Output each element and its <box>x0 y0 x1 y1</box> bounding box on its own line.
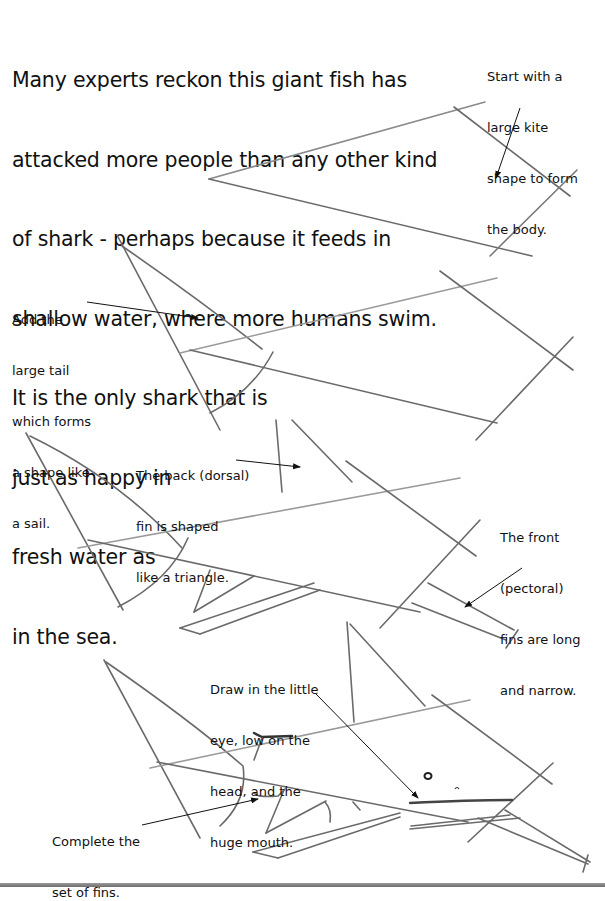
step-1-caption: Start with a large kite shape to form th… <box>487 34 578 255</box>
caption-line: huge mouth. <box>210 834 319 851</box>
caption-line: (pectoral) <box>500 580 581 597</box>
step-4-caption: The front (pectoral) fins are long and n… <box>500 495 581 716</box>
shark-nostril-icon <box>455 788 459 790</box>
caption-line: the body. <box>487 221 578 238</box>
caption-line: large tail <box>12 362 91 379</box>
caption-line: The back (dorsal) <box>136 467 249 484</box>
caption-line: and narrow. <box>500 682 581 699</box>
step-5-arrow-icon <box>316 694 418 798</box>
caption-line: Draw in the little <box>210 681 319 698</box>
step-2-tail-body <box>117 235 573 440</box>
step-3-caption: The back (dorsal) fin is shaped like a t… <box>136 433 249 603</box>
caption-line: a shape like <box>12 464 91 481</box>
caption-line: shape to form <box>487 170 578 187</box>
caption-line: fin is shaped <box>136 518 249 535</box>
caption-line: Start with a <box>487 68 578 85</box>
caption-line: fins are long <box>500 631 581 648</box>
step-2-arrow-icon <box>87 302 198 318</box>
caption-line: which forms <box>12 413 91 430</box>
caption-line: eye, low on the <box>210 732 319 749</box>
shark-eye-icon <box>425 773 432 779</box>
caption-line: large kite <box>487 119 578 136</box>
caption-line: head, and the <box>210 783 319 800</box>
step-3-dorsal-fin <box>26 420 518 648</box>
caption-line: Add the <box>12 311 91 328</box>
caption-line: a sail. <box>12 515 91 532</box>
page-bottom-edge <box>0 883 605 887</box>
step-5-caption: Draw in the little eye, low on the head,… <box>210 647 319 868</box>
caption-line: like a triangle. <box>136 569 249 586</box>
caption-line: The front <box>500 529 581 546</box>
step-2-caption: Add the large tail which forms a shape l… <box>12 277 91 549</box>
caption-line: Complete the <box>52 833 140 850</box>
